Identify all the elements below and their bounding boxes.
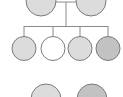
bottom-1-circle [31,84,61,97]
bottom-generation [31,84,107,97]
parent-2-circle [76,0,106,16]
child-4-circle [96,37,120,61]
sibship [12,26,120,61]
parent-generation [26,0,106,26]
child-3-circle [68,37,92,61]
parent-1-circle [26,0,56,16]
pedigree-diagram [0,0,123,97]
child-1-circle [12,37,36,61]
child-2-circle [41,37,65,61]
bottom-2-circle [77,84,107,97]
